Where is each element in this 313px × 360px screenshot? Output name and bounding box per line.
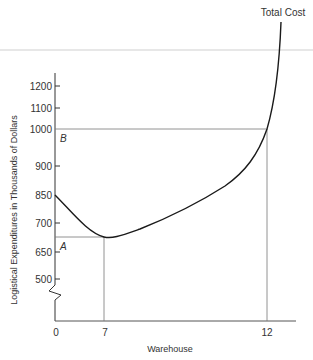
y-tick-700: 700 — [35, 218, 52, 229]
point-b-label: B — [60, 133, 67, 144]
y-axis-break — [49, 285, 61, 300]
total-cost-chart: 1200 1100 1000 900 850 700 650 500 B A T… — [0, 0, 313, 360]
y-tick-1000: 1000 — [30, 124, 53, 135]
y-axis-title: Logistical Expenditures in Thousands of … — [9, 115, 19, 305]
total-cost-label: Total Cost — [261, 7, 306, 18]
y-tick-1200: 1200 — [30, 81, 53, 92]
total-cost-curve — [55, 22, 281, 238]
x-axis-title: Warehouse — [147, 344, 193, 354]
y-tick-900: 900 — [35, 161, 52, 172]
y-tick-1100: 1100 — [30, 103, 52, 114]
point-a-label: A — [59, 241, 67, 252]
x-tick-0: 0 — [53, 327, 59, 338]
y-tick-500: 500 — [35, 274, 52, 285]
x-tick-7: 7 — [102, 327, 108, 338]
y-tick-650: 650 — [35, 247, 52, 258]
y-tick-850: 850 — [35, 190, 52, 201]
x-tick-12: 12 — [261, 327, 273, 338]
